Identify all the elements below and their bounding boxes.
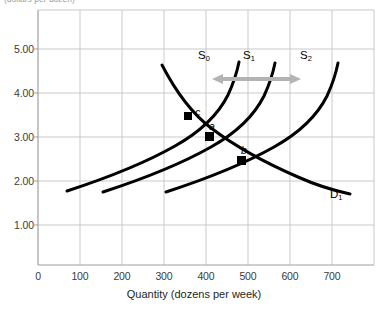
marker-point-c [184,112,192,120]
x-axis-title: Quantity (dozens per week) [0,288,388,300]
curve-label-s0-text: S [198,49,206,61]
x-tick-label: 0 [18,270,58,282]
y-axis-tick-marks [33,49,38,225]
shift-arrow [212,74,301,84]
curve-label-s1: S1 [243,49,255,61]
curve-label-s1-text: S [243,49,251,61]
curve-label-s0: S0 [198,49,210,61]
x-tick-label: 300 [144,270,184,282]
x-tick-label: 600 [270,270,310,282]
x-tick-label: 400 [186,270,226,282]
point-label-c: c [195,106,200,118]
curve-label-s1-sub: 1 [251,54,255,63]
marker-point-a [205,132,214,141]
curve-label-d1: D1 [330,188,342,200]
curve-label-s2-text: S [300,49,308,61]
curve-label-d1-sub: 1 [338,193,342,202]
x-tick-label: 700 [312,270,352,282]
supply-demand-chart: (dollars per dozen) 5.00 4.00 3.00 2.00 … [0,0,388,312]
demand-curve-d1 [162,65,350,194]
point-label-a: a [209,120,215,132]
supply-curve-s1 [103,63,275,192]
point-label-b: b [241,144,247,156]
plot-canvas [0,0,388,312]
x-tick-label: 100 [60,270,100,282]
curve-label-s2: S2 [300,49,312,61]
x-tick-label: 200 [102,270,142,282]
x-tick-label: 500 [228,270,268,282]
curve-label-s2-sub: 2 [308,54,312,63]
curve-label-s0-sub: 0 [206,54,210,63]
marker-point-b [237,156,246,165]
supply-curve-s2 [166,63,338,192]
